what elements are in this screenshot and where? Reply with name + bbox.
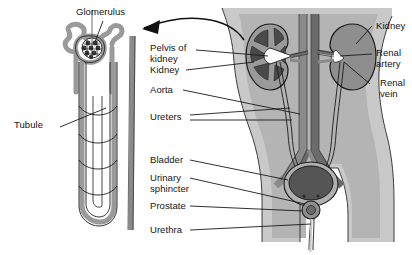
label-aorta: Aorta <box>150 85 173 96</box>
tubule-segment-arcs <box>79 106 117 195</box>
label-glomerulus: Glomerulus <box>76 7 125 18</box>
label-pelvis-of-kidney: Pelvis of kidney <box>150 43 186 64</box>
label-bladder: Bladder <box>150 155 183 166</box>
diagram-canvas <box>0 0 412 255</box>
kidney-left-sectioned <box>246 24 292 90</box>
urinary-system-diagram: Glomerulus Tubule Pelvis of kidney Kidne… <box>0 0 412 255</box>
loop-of-henle <box>82 62 114 222</box>
label-tubule: Tubule <box>14 120 43 131</box>
label-prostate: Prostate <box>150 201 186 212</box>
label-renal-artery: Renal artery <box>376 48 401 69</box>
nephron-diagram <box>65 10 135 230</box>
label-urinary-sphincter: Urinary sphincter <box>150 173 189 194</box>
kidney-right-whole <box>330 24 376 90</box>
label-renal-vein: Renal vein <box>380 78 405 99</box>
label-kidney-right: Kidney <box>376 21 405 32</box>
bladder <box>284 162 338 206</box>
glomerulus-tuft <box>82 38 102 59</box>
label-ureters: Ureters <box>150 112 182 123</box>
label-urethra: Urethra <box>150 225 182 236</box>
label-kidney-left: Kidney <box>150 65 179 76</box>
